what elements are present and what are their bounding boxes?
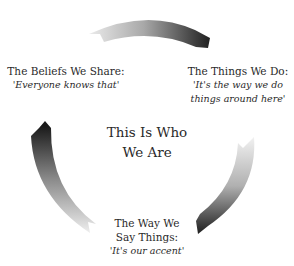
node-things-quote-line-2: things around here' <box>182 92 294 106</box>
node-things: The Things We Do: 'It's the way we do th… <box>182 64 294 106</box>
arrow-beliefs-to-things <box>89 20 210 48</box>
arrow-things-to-way <box>196 137 254 234</box>
node-way-title-line-1: The Way We <box>97 216 197 230</box>
center-label-line-2: We Are <box>97 142 197 162</box>
center-label: This Is Who We Are <box>97 122 197 162</box>
node-way-title-line-2: Say Things: <box>97 230 197 244</box>
node-beliefs: The Beliefs We Share: 'Everyone knows th… <box>2 64 130 92</box>
node-way-quote: 'It's our accent' <box>97 244 197 258</box>
node-things-title: The Things We Do: <box>182 64 294 78</box>
node-way: The Way We Say Things: 'It's our accent' <box>97 216 197 258</box>
node-beliefs-quote: 'Everyone knows that' <box>2 78 130 92</box>
node-beliefs-title: The Beliefs We Share: <box>2 64 130 78</box>
node-things-quote-line-1: 'It's the way we do <box>182 78 294 92</box>
center-label-line-1: This Is Who <box>97 122 197 142</box>
arrow-way-to-beliefs <box>31 121 96 233</box>
